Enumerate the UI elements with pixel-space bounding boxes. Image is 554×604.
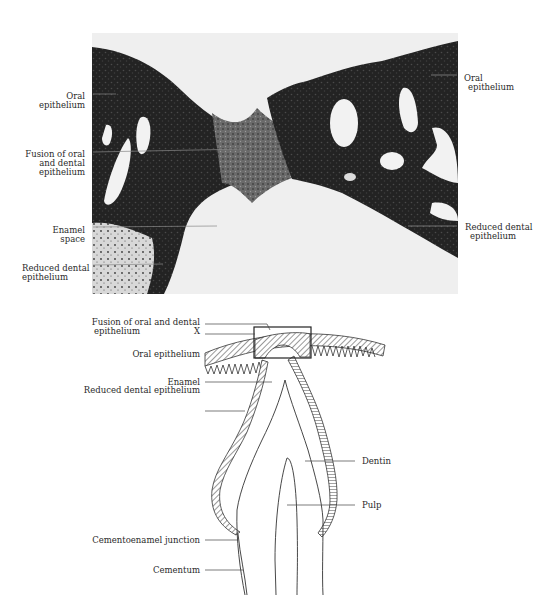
- schematic-label-x: X: [160, 327, 200, 336]
- reduced-dental-epithelium-right: [288, 356, 337, 537]
- schematic-label-cementoenamel-junction: Cementoenamel junction: [60, 536, 200, 545]
- schematic-label-pulp: Pulp: [362, 501, 381, 510]
- schematic-label-reduced-dental-epithelium: Reduced dental epithelium: [60, 386, 200, 395]
- schematic-label-dentin: Dentin: [362, 457, 391, 466]
- schematic-leader-lines: [205, 324, 355, 570]
- fusion-zone: [255, 333, 310, 358]
- schematic-label-cementum: Cementum: [80, 566, 200, 575]
- reduced-dental-epithelium-left: [212, 360, 268, 535]
- schematic-label-oral-epithelium: Oral epithelium: [80, 350, 200, 359]
- tooth-schematic: [0, 0, 554, 604]
